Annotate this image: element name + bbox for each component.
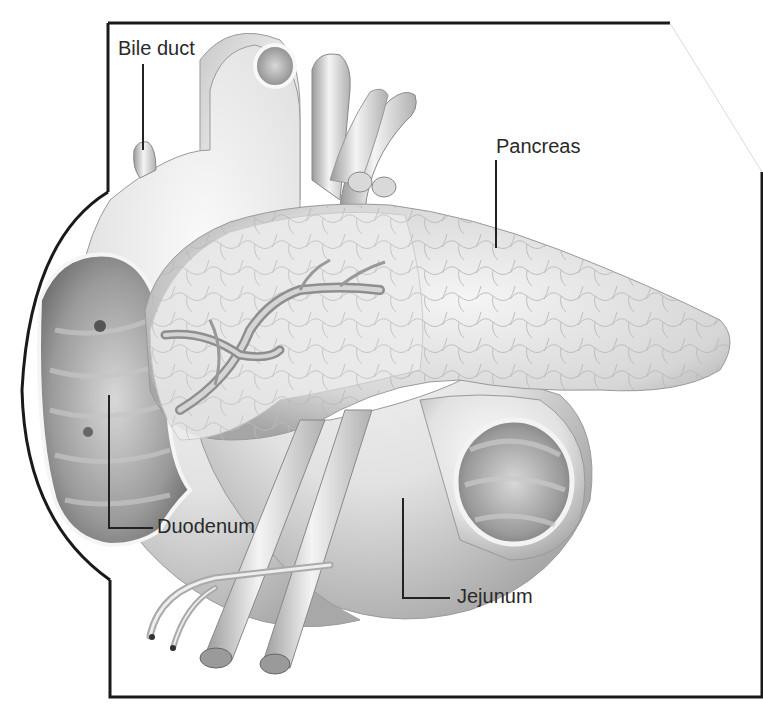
upper-vessels <box>312 54 416 210</box>
anatomy-diagram <box>0 0 763 724</box>
label-bile-duct: Bile duct <box>118 38 195 58</box>
label-jejunum: Jejunum <box>457 586 533 606</box>
papilla-icon <box>94 320 106 332</box>
label-duodenum: Duodenum <box>157 516 255 536</box>
label-pancreas: Pancreas <box>496 136 581 156</box>
